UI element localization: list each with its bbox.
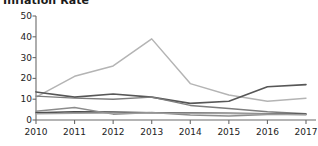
x-axis-label-2011: 2011 [63, 128, 86, 137]
series-group [36, 39, 306, 116]
x-axis-tick-labels: 20102011201220132014201520162017 [36, 126, 306, 142]
x-axis-label-2012: 2012 [102, 128, 125, 137]
x-axis-label-2010: 2010 [25, 128, 48, 137]
y-axis-tick-labels: 01020304050 [0, 16, 32, 120]
y-axis-label-40: 40 [21, 32, 32, 41]
data-line-series-1 [36, 39, 306, 101]
x-axis-label-2015: 2015 [217, 128, 240, 137]
y-axis-label-0: 0 [26, 116, 32, 125]
x-axis-label-2014: 2014 [179, 128, 202, 137]
x-axis-label-2017: 2017 [295, 128, 318, 137]
y-axis-label-30: 30 [21, 53, 32, 62]
y-axis-label-50: 50 [21, 12, 32, 21]
x-axis-label-2016: 2016 [256, 128, 279, 137]
y-axis-label-10: 10 [21, 95, 32, 104]
chart-title: Inflation Rate [3, 0, 89, 7]
inflation-rate-line-chart: Inflation Rate 01020304050 2010201120122… [0, 0, 318, 146]
plot-area [36, 16, 306, 120]
plot-svg [36, 16, 306, 120]
x-axis-label-2013: 2013 [140, 128, 163, 137]
y-axis-label-20: 20 [21, 74, 32, 83]
